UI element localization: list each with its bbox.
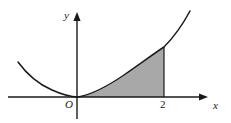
origin-label: O	[65, 99, 73, 110]
x-tick-label-2: 2	[160, 99, 166, 110]
x-axis-label: x	[213, 100, 218, 111]
plot-canvas	[0, 0, 231, 123]
shaded-area-under-curve	[78, 47, 164, 97]
y-axis-arrow-icon	[73, 12, 80, 21]
math-figure-area-under-curve: y x O 2	[0, 0, 231, 123]
x-axis-arrow-icon	[199, 93, 208, 100]
y-axis-label: y	[64, 10, 69, 21]
